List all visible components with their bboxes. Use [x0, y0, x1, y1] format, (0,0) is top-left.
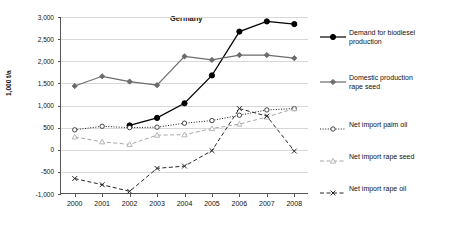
series-3 [73, 106, 297, 132]
legend-label: Net import rape seed [348, 153, 414, 162]
x-tick-mark [239, 194, 240, 197]
plot-area: 3,0002,5002,0001,5001,0005000-500-1,000 … [61, 17, 308, 194]
legend-label: Net import rape oil [348, 185, 406, 194]
data-point [237, 29, 242, 34]
x-tick-mark [130, 194, 131, 197]
data-point [265, 108, 269, 112]
y-axis-label: 1,000 t/a [5, 70, 12, 96]
legend-item-3[interactable]: Net import palm oil [318, 121, 407, 133]
legend-item-1[interactable]: Demand for biodiesel production [318, 29, 415, 46]
series-line [75, 55, 295, 86]
data-point [292, 149, 297, 154]
y-tick-label: 1,000 [16, 102, 54, 109]
data-point [209, 57, 214, 62]
series-1 [127, 19, 297, 128]
data-point [209, 73, 214, 78]
data-point [72, 134, 77, 139]
series-2 [72, 52, 297, 88]
data-point [127, 79, 132, 84]
data-point [292, 56, 297, 61]
legend-swatch-icon [318, 74, 348, 86]
x-tick-mark [157, 194, 158, 197]
legend-swatch-icon [318, 153, 348, 165]
series-line [75, 109, 295, 130]
data-point [182, 121, 186, 125]
y-tick-label: 2,000 [16, 58, 54, 65]
legend-swatch-icon [318, 121, 348, 133]
legend-item-2[interactable]: Domestic production rape seed [318, 74, 413, 91]
series-5 [72, 106, 296, 194]
y-tick-label: 500 [16, 124, 54, 131]
data-point [292, 21, 297, 26]
legend-swatch-icon [318, 29, 348, 41]
data-point [237, 52, 242, 57]
legend-label: Net import palm oil [348, 121, 407, 130]
x-tick-mark [75, 194, 76, 197]
y-tick-label: -500 [16, 168, 54, 175]
data-point [210, 118, 214, 122]
data-point [155, 125, 159, 129]
x-tick-mark [102, 194, 103, 197]
chart-figure: Germany 1,000 t/a 3,0002,5002,0001,5001,… [0, 0, 450, 227]
chart-legend: Demand for biodiesel productionDomestic … [318, 17, 450, 194]
legend-label: Demand for biodiesel production [348, 29, 415, 46]
data-point [264, 19, 269, 24]
data-point [100, 124, 104, 128]
data-point [182, 101, 187, 106]
data-point [154, 115, 159, 120]
y-tick-label: -1,000 [16, 191, 54, 198]
data-point [73, 128, 77, 132]
legend-label: Domestic production rape seed [348, 74, 413, 91]
y-tick-mark [58, 194, 61, 195]
series-line [75, 109, 295, 145]
y-tick-label: 1,500 [16, 80, 54, 87]
x-tick-mark [185, 194, 186, 197]
data-series-layer [61, 17, 308, 194]
data-point [127, 125, 131, 129]
y-tick-label: 2,500 [16, 36, 54, 43]
x-tick-mark [267, 194, 268, 197]
x-tick-label: 2008 [274, 200, 314, 208]
legend-swatch-icon [318, 185, 348, 197]
data-point [209, 126, 214, 131]
data-point [237, 113, 241, 117]
y-tick-label: 0 [16, 146, 54, 153]
data-point [210, 148, 215, 153]
legend-item-5[interactable]: Net import rape oil [318, 185, 406, 197]
data-point [72, 83, 77, 88]
y-tick-label: 3,000 [16, 14, 54, 21]
data-point [264, 52, 269, 57]
x-tick-mark [212, 194, 213, 197]
x-tick-mark [294, 194, 295, 197]
legend-item-4[interactable]: Net import rape seed [318, 153, 414, 165]
data-point [100, 74, 105, 79]
